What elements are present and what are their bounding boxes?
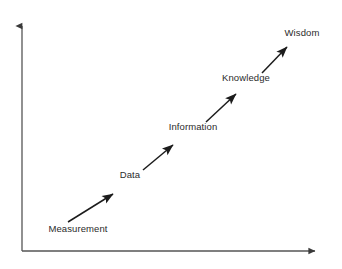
stage-label-knowledge: Knowledge (222, 73, 270, 83)
stage-label-information: Information (169, 122, 218, 132)
arrow-information-to-knowledge (206, 94, 236, 122)
diagram-canvas: Measurement Data Information Knowledge W… (0, 0, 342, 269)
axis-group (22, 26, 315, 251)
arrow-measurement-to-data (68, 194, 113, 222)
stage-label-wisdom: Wisdom (285, 28, 320, 38)
arrow-knowledge-to-wisdom (262, 47, 287, 73)
arrow-data-to-information (143, 145, 173, 170)
stage-label-data: Data (120, 170, 140, 180)
stage-label-measurement: Measurement (48, 224, 107, 234)
